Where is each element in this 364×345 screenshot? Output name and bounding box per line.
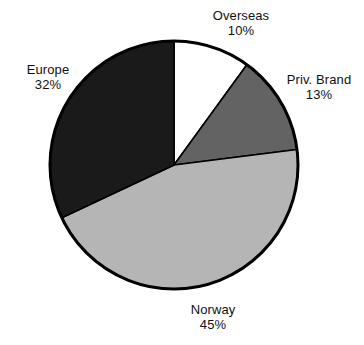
slice-label-overseas-name: Overseas (186, 8, 296, 23)
pie-chart-graphic (0, 0, 364, 345)
slice-label-europe-value: 32% (2, 77, 94, 92)
slice-label-overseas: Overseas 10% (186, 8, 296, 38)
slice-label-norway: Norway 45% (158, 302, 268, 332)
slice-label-priv-brand-name: Priv. Brand (276, 72, 362, 87)
slice-label-norway-value: 45% (158, 317, 268, 332)
slice-label-priv-brand-value: 13% (276, 87, 362, 102)
pie-chart: Overseas 10% Priv. Brand 13% Europe 32% … (0, 0, 364, 345)
slice-label-norway-name: Norway (158, 302, 268, 317)
slice-label-europe: Europe 32% (2, 62, 94, 92)
slice-label-priv-brand: Priv. Brand 13% (276, 72, 362, 102)
slice-label-europe-name: Europe (2, 62, 94, 77)
slice-label-overseas-value: 10% (186, 23, 296, 38)
